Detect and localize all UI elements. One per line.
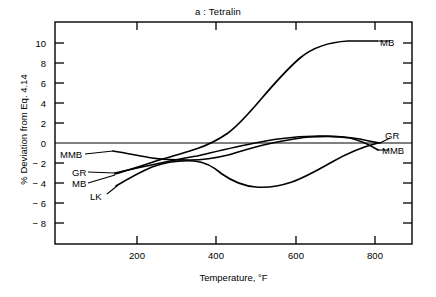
plot-frame xyxy=(55,22,412,244)
y-axis-ticks-right xyxy=(403,43,412,223)
label-leaders-left xyxy=(85,151,117,194)
curve-gr xyxy=(115,136,380,173)
plot-area-svg xyxy=(0,0,436,297)
chart-figure: a : Tetralin % Deviation from Eq. 4.14 T… xyxy=(0,0,436,297)
label-leaders-right xyxy=(377,41,390,150)
curve-mmb xyxy=(113,136,378,160)
x-axis-ticks xyxy=(137,236,375,244)
y-axis-ticks xyxy=(55,43,64,223)
curve-mb xyxy=(115,41,377,174)
x-axis-ticks-top xyxy=(137,22,375,30)
